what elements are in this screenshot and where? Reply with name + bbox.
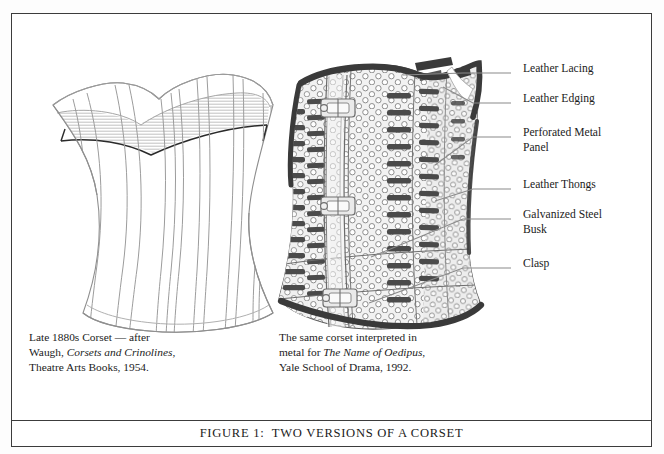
caption-line: Waugh, Corsets and Crinolines, (29, 345, 269, 360)
annotation-label-galvanized-steel-busk: Galvanized Steel Busk (523, 208, 602, 237)
caption-title-italic: Corsets and Crinolines (67, 346, 173, 358)
annotation-label-leather-thongs: Leather Thongs (523, 178, 596, 193)
caption-text: Late 1880s Corset — after (29, 331, 150, 343)
annotation-label-clasp: Clasp (523, 257, 549, 272)
caption-text: , (172, 346, 175, 358)
figure-caption-band: FIGURE 1: TWO VERSIONS OF A CORSET (11, 420, 652, 447)
annotation-label-leather-lacing: Leather Lacing (523, 62, 594, 77)
annotation-label-leather-edging: Leather Edging (523, 92, 595, 107)
caption-line: Yale School of Drama, 1992. (279, 360, 529, 375)
figure-container: Leather Lacing Leather Edging Perforated… (0, 0, 664, 454)
caption-text: The same corset interpreted in (279, 331, 417, 343)
metal-corset-drawing (275, 57, 481, 329)
caption-text: metal for (279, 346, 323, 358)
caption-title-italic: The Name of Oedipus (323, 346, 422, 358)
clasp (323, 289, 357, 307)
figure-caption-text: FIGURE 1: TWO VERSIONS OF A CORSET (200, 426, 464, 441)
right-panel-caption: The same corset interpreted inmetal for … (279, 330, 529, 376)
caption-text: Yale School of Drama, 1992. (279, 361, 411, 373)
caption-line: Late 1880s Corset — after (29, 330, 269, 345)
clasp (321, 197, 355, 215)
caption-line: The same corset interpreted in (279, 330, 529, 345)
caption-line: metal for The Name of Oedipus, (279, 345, 529, 360)
clasp (321, 99, 355, 117)
caption-text: Theatre Arts Books, 1954. (29, 361, 149, 373)
caption-line: Theatre Arts Books, 1954. (29, 360, 269, 375)
caption-text: , (422, 346, 425, 358)
annotation-label-perforated-metal-panel: Perforated Metal Panel (523, 126, 601, 155)
caption-text: Waugh, (29, 346, 67, 358)
left-panel-caption: Late 1880s Corset — afterWaugh, Corsets … (29, 330, 269, 376)
fabric-corset-drawing (53, 74, 273, 335)
